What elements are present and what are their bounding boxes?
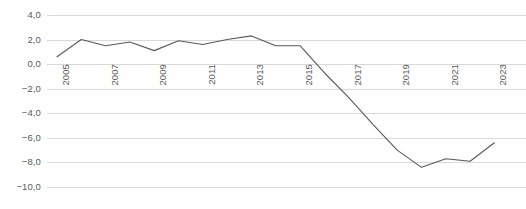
y-tick-label: −2,0 bbox=[0, 84, 41, 94]
line-chart: 4,02,00,0−2,0−4,0−6,0−8,0−10,0 200520072… bbox=[0, 0, 526, 209]
y-tick-label: −10,0 bbox=[0, 182, 41, 192]
x-tick-label: 2013 bbox=[255, 64, 265, 86]
y-axis-tick-labels: 4,02,00,0−2,0−4,0−6,0−8,0−10,0 bbox=[0, 0, 41, 209]
x-axis-tick-labels: 2005200720092011201320152017201920212023 bbox=[47, 0, 526, 209]
y-tick-label: −4,0 bbox=[0, 108, 41, 118]
x-tick-label: 2005 bbox=[61, 64, 71, 86]
x-tick-label: 2015 bbox=[304, 64, 314, 86]
y-tick-label: −6,0 bbox=[0, 133, 41, 143]
y-tick-label: 4,0 bbox=[0, 10, 41, 20]
x-tick-label: 2007 bbox=[110, 64, 120, 86]
x-tick-label: 2011 bbox=[207, 64, 217, 85]
y-tick-label: −8,0 bbox=[0, 157, 41, 167]
x-tick-label: 2017 bbox=[353, 64, 363, 86]
x-tick-label: 2019 bbox=[401, 64, 411, 86]
y-tick-label: 2,0 bbox=[0, 35, 41, 45]
x-tick-label: 2009 bbox=[158, 64, 168, 86]
y-tick-label: 0,0 bbox=[0, 59, 41, 69]
x-tick-label: 2021 bbox=[450, 64, 460, 86]
x-tick-label: 2023 bbox=[498, 64, 508, 86]
